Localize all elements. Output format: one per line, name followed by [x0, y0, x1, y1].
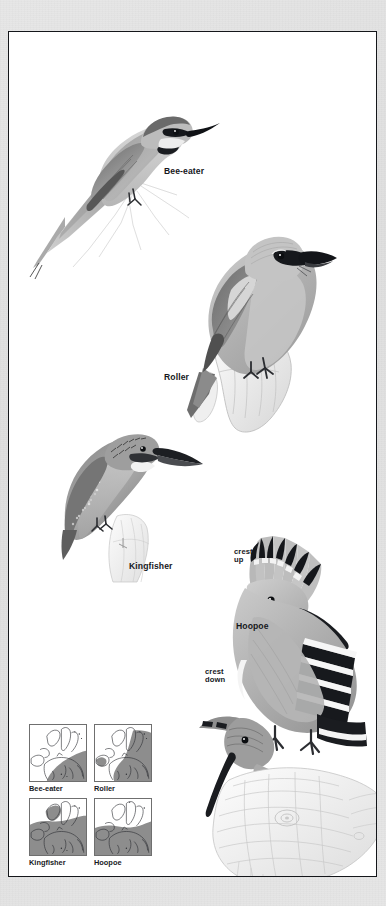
- label-roller: Roller: [164, 373, 189, 382]
- bird-illustration-kingfisher: [61, 424, 211, 584]
- bird-illustration-hoopoe: [199, 532, 377, 877]
- map-europe-hoopoe: [95, 799, 151, 855]
- range-map-kingfisher: Kingfisher: [29, 798, 87, 867]
- map-frame-roller: [94, 724, 152, 782]
- range-map-bee-eater: Bee-eater: [29, 724, 87, 793]
- annotation-crest-up: crest up: [234, 548, 253, 564]
- label-hoopoe: Hoopoe: [236, 622, 269, 631]
- label-bee-eater: Bee-eater: [164, 167, 204, 176]
- bird-illustration-roller: [187, 222, 347, 442]
- map-europe-bee-eater: [30, 725, 86, 781]
- range-map-hoopoe: Hoopoe: [94, 798, 152, 867]
- range-map-row-1: Bee-eater: [29, 724, 155, 793]
- bird-illustration-bee-eater: [29, 87, 204, 287]
- map-caption-kingfisher: Kingfisher: [29, 859, 87, 867]
- illustration-plate: Bee-eater Roller Kingfisher Hoopoe crest…: [9, 32, 376, 876]
- map-frame-hoopoe: [94, 798, 152, 856]
- map-frame-bee-eater: [29, 724, 87, 782]
- range-map-row-2: Kingfisher: [29, 798, 155, 867]
- map-frame-kingfisher: [29, 798, 87, 856]
- annotation-crest-down: crest down: [205, 668, 225, 684]
- map-europe-roller: [95, 725, 151, 781]
- label-kingfisher: Kingfisher: [129, 562, 173, 571]
- map-caption-roller: Roller: [94, 785, 152, 793]
- map-caption-hoopoe: Hoopoe: [94, 859, 152, 867]
- range-map-roller: Roller: [94, 724, 152, 793]
- map-europe-kingfisher: [30, 799, 86, 855]
- guide-page: Bee-eater Roller Kingfisher Hoopoe crest…: [8, 31, 377, 877]
- map-caption-bee-eater: Bee-eater: [29, 785, 87, 793]
- range-map-grid: Bee-eater: [29, 724, 155, 872]
